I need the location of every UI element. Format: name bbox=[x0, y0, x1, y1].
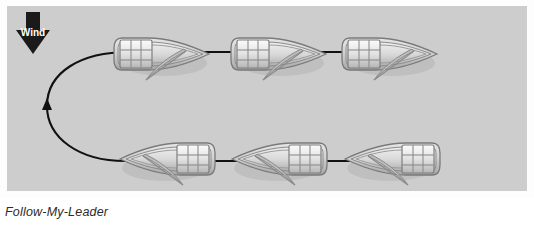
arrow-turn-up-icon bbox=[42, 98, 52, 110]
figure-caption: Follow-My-Leader bbox=[5, 205, 108, 219]
figure-root: Wind Follow-My-Leader bbox=[0, 0, 534, 233]
diagram-canvas: Wind bbox=[7, 6, 527, 191]
boat-top-3 bbox=[342, 38, 437, 80]
diagram-panel: Wind bbox=[7, 6, 527, 191]
boat-bottom-2 bbox=[232, 143, 327, 185]
boat-top-1 bbox=[114, 38, 209, 80]
wind-label: Wind bbox=[21, 27, 45, 38]
boat-bottom-3 bbox=[345, 143, 440, 185]
wind-arrow: Wind bbox=[16, 12, 50, 54]
figure-frame: Wind bbox=[0, 0, 534, 197]
boat-top-2 bbox=[231, 38, 326, 80]
boat-bottom-1 bbox=[120, 143, 215, 185]
